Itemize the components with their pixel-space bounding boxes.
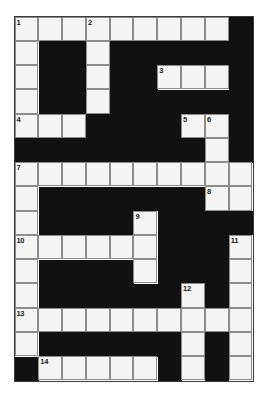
- crossword-letter-cell[interactable]: [62, 235, 86, 259]
- crossword-letter-cell[interactable]: [15, 65, 39, 89]
- crossword-letter-cell[interactable]: 5: [181, 114, 205, 138]
- crossword-grid[interactable]: 1234567891011121314: [15, 17, 253, 381]
- crossword-letter-cell[interactable]: [38, 162, 62, 186]
- crossword-block-cell: [86, 332, 110, 356]
- crossword-block-cell: [158, 211, 182, 235]
- crossword-letter-cell[interactable]: [62, 308, 86, 332]
- crossword-block-cell: [39, 41, 63, 65]
- crossword-letter-cell[interactable]: [15, 259, 39, 283]
- crossword-letter-cell[interactable]: [38, 17, 62, 41]
- crossword-block-cell: [110, 332, 134, 356]
- crossword-letter-cell[interactable]: [229, 283, 253, 307]
- crossword-letter-cell[interactable]: [181, 162, 205, 186]
- crossword-letter-cell[interactable]: [229, 356, 253, 380]
- crossword-block-cell: [205, 260, 229, 284]
- crossword-letter-cell[interactable]: [62, 356, 86, 380]
- crossword-letter-cell[interactable]: [86, 65, 110, 89]
- crossword-letter-cell[interactable]: [133, 259, 157, 283]
- crossword-letter-cell[interactable]: [181, 65, 205, 89]
- crossword-letter-cell[interactable]: [110, 308, 134, 332]
- crossword-block-cell: [158, 235, 182, 259]
- crossword-letter-cell[interactable]: 10: [15, 235, 39, 259]
- crossword-block-cell: [205, 357, 229, 381]
- crossword-letter-cell[interactable]: [15, 283, 39, 307]
- crossword-letter-cell[interactable]: [15, 211, 39, 235]
- crossword-letter-cell[interactable]: [157, 162, 181, 186]
- crossword-letter-cell[interactable]: [205, 65, 229, 89]
- crossword-letter-cell[interactable]: [38, 114, 62, 138]
- crossword-letter-cell[interactable]: [205, 162, 229, 186]
- crossword-letter-cell[interactable]: [181, 356, 205, 380]
- crossword-letter-cell[interactable]: [133, 17, 157, 41]
- crossword-letter-cell[interactable]: [229, 162, 253, 186]
- crossword-letter-cell[interactable]: [86, 89, 110, 113]
- crossword-letter-cell[interactable]: [157, 308, 181, 332]
- crossword-block-cell: [158, 138, 182, 162]
- crossword-letter-cell[interactable]: [110, 162, 134, 186]
- crossword-block-cell: [229, 17, 253, 41]
- clue-number: 11: [231, 236, 238, 245]
- crossword-letter-cell[interactable]: 3: [157, 65, 181, 89]
- crossword-block-cell: [39, 187, 63, 211]
- crossword-letter-cell[interactable]: 4: [15, 114, 39, 138]
- crossword-letter-cell[interactable]: 12: [181, 283, 205, 307]
- crossword-letter-cell[interactable]: [62, 17, 86, 41]
- crossword-block-cell: [205, 332, 229, 356]
- crossword-letter-cell[interactable]: 9: [133, 211, 157, 235]
- crossword-letter-cell[interactable]: [38, 235, 62, 259]
- crossword-letter-cell[interactable]: [86, 41, 110, 65]
- crossword-letter-cell[interactable]: [86, 308, 110, 332]
- crossword-block-cell: [229, 41, 253, 65]
- crossword-letter-cell[interactable]: [62, 162, 86, 186]
- crossword-letter-cell[interactable]: 14: [38, 356, 62, 380]
- crossword-letter-cell[interactable]: [229, 332, 253, 356]
- crossword-block-cell: [39, 332, 63, 356]
- crossword-block-cell: [110, 66, 134, 90]
- crossword-block-cell: [86, 284, 110, 308]
- crossword-letter-cell[interactable]: [15, 41, 39, 65]
- crossword-block-cell: [205, 90, 229, 114]
- crossword-letter-cell[interactable]: [110, 356, 134, 380]
- crossword-letter-cell[interactable]: [15, 332, 39, 356]
- crossword-letter-cell[interactable]: [86, 162, 110, 186]
- crossword-block-cell: [63, 284, 87, 308]
- crossword-letter-cell[interactable]: [181, 332, 205, 356]
- crossword-letter-cell[interactable]: [181, 17, 205, 41]
- crossword-block-cell: [182, 90, 206, 114]
- crossword-letter-cell[interactable]: [181, 308, 205, 332]
- crossword-letter-cell[interactable]: [157, 17, 181, 41]
- crossword-block-cell: [110, 284, 134, 308]
- crossword-letter-cell[interactable]: [15, 186, 39, 210]
- crossword-letter-cell[interactable]: [133, 162, 157, 186]
- crossword-block-cell: [134, 332, 158, 356]
- crossword-letter-cell[interactable]: [133, 356, 157, 380]
- crossword-letter-cell[interactable]: 8: [205, 186, 229, 210]
- crossword-block-cell: [63, 332, 87, 356]
- crossword-letter-cell[interactable]: [229, 259, 253, 283]
- crossword-letter-cell[interactable]: 6: [205, 114, 229, 138]
- crossword-letter-cell[interactable]: [38, 308, 62, 332]
- crossword-letter-cell[interactable]: [86, 235, 110, 259]
- crossword-block-cell: [39, 211, 63, 235]
- crossword-letter-cell[interactable]: [15, 89, 39, 113]
- crossword-block-cell: [39, 90, 63, 114]
- crossword-letter-cell[interactable]: 11: [229, 235, 253, 259]
- crossword-letter-cell[interactable]: [110, 17, 134, 41]
- crossword-letter-cell[interactable]: [133, 235, 157, 259]
- crossword-letter-cell[interactable]: [229, 186, 253, 210]
- crossword-letter-cell[interactable]: 1: [15, 17, 39, 41]
- crossword-letter-cell[interactable]: 13: [15, 308, 39, 332]
- crossword-letter-cell[interactable]: [205, 308, 229, 332]
- crossword-letter-cell[interactable]: [205, 17, 229, 41]
- clue-number: 8: [207, 187, 211, 196]
- crossword-letter-cell[interactable]: [110, 235, 134, 259]
- crossword-letter-cell[interactable]: 7: [15, 162, 39, 186]
- crossword-letter-cell[interactable]: [62, 114, 86, 138]
- crossword-block-cell: [86, 114, 110, 138]
- crossword-block-cell: [39, 66, 63, 90]
- crossword-letter-cell[interactable]: 2: [86, 17, 110, 41]
- crossword-letter-cell[interactable]: [86, 356, 110, 380]
- crossword-letter-cell[interactable]: [205, 138, 229, 162]
- crossword-letter-cell[interactable]: [229, 308, 253, 332]
- crossword-letter-cell[interactable]: [133, 308, 157, 332]
